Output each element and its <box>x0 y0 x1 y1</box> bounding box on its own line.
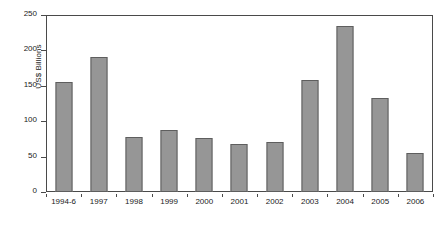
y-tick-label-50: 50 <box>28 151 37 160</box>
y-tick-0: 0 <box>0 192 46 193</box>
bar-slot <box>187 15 222 192</box>
x-axis-label: 2001 <box>222 197 257 206</box>
x-axis-label: 2005 <box>363 197 398 206</box>
y-tick-150: 150 <box>0 86 46 87</box>
x-axis-label: 1998 <box>116 197 151 206</box>
bar-slot <box>81 15 116 192</box>
bar-series <box>46 15 433 192</box>
y-tick-250: 250 <box>0 15 46 16</box>
y-tick-200: 200 <box>0 50 46 51</box>
bar[interactable] <box>90 57 107 192</box>
bar[interactable] <box>161 130 178 192</box>
x-axis-label: 2003 <box>292 197 327 206</box>
x-tick-mark <box>433 194 434 197</box>
bar-slot <box>398 15 433 192</box>
y-axis-title: US$ Billions <box>34 7 43 127</box>
bar-slot <box>327 15 362 192</box>
x-axis-label: 1997 <box>81 197 116 206</box>
bar[interactable] <box>231 144 248 192</box>
bar-slot <box>257 15 292 192</box>
x-axis-label: 2002 <box>257 197 292 206</box>
bar[interactable] <box>407 153 424 192</box>
bar-slot <box>152 15 187 192</box>
y-tick-mark-0 <box>41 192 46 193</box>
bar-slot <box>292 15 327 192</box>
y-tick-label-150: 150 <box>24 80 37 89</box>
y-tick-label-0: 0 <box>33 186 37 195</box>
bar-slot <box>222 15 257 192</box>
chart-page: US$ Billions 0 50 100 150 200 250 1994-6… <box>0 0 444 230</box>
x-axis-label: 2006 <box>398 197 433 206</box>
bar[interactable] <box>55 82 72 192</box>
bar[interactable] <box>337 26 354 192</box>
bar-slot <box>46 15 81 192</box>
bar[interactable] <box>372 98 389 192</box>
x-tick-mark <box>46 194 47 197</box>
y-tick-label-250: 250 <box>24 9 37 18</box>
x-axis-label: 1999 <box>152 197 187 206</box>
x-axis-label: 2000 <box>187 197 222 206</box>
bar[interactable] <box>266 142 283 192</box>
y-tick-label-100: 100 <box>24 115 37 124</box>
bar[interactable] <box>196 138 213 192</box>
y-tick-100: 100 <box>0 121 46 122</box>
bar-slot <box>363 15 398 192</box>
y-tick-50: 50 <box>0 157 46 158</box>
x-axis-label: 2004 <box>327 197 362 206</box>
bar[interactable] <box>125 137 142 192</box>
y-tick-label-200: 200 <box>24 44 37 53</box>
x-axis: 1994-61997199819992000200120022003200420… <box>46 194 433 210</box>
bar-slot <box>116 15 151 192</box>
bar[interactable] <box>301 80 318 192</box>
x-axis-label: 1994-6 <box>46 197 81 206</box>
